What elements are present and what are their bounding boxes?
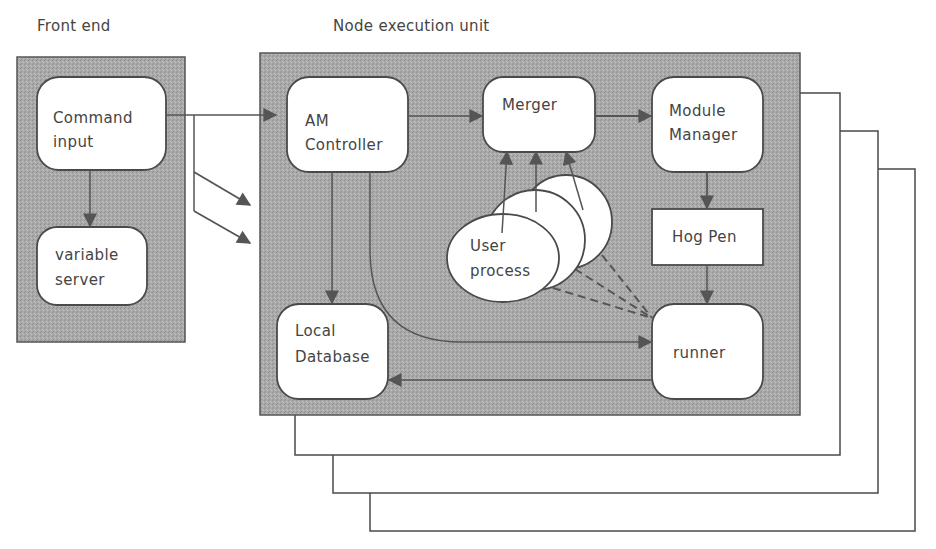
edge-command-to-node-copy-2 xyxy=(194,172,250,205)
command-input-label-line1: Command xyxy=(53,109,133,127)
user-process-label-line2: process xyxy=(470,262,530,280)
runner-label: runner xyxy=(673,344,726,362)
edge-command-to-node-copy-3 xyxy=(194,211,250,243)
hog-pen-node: Hog Pen xyxy=(652,209,763,265)
local-database-node: Local Database xyxy=(277,304,388,399)
am-controller-label-line2: Controller xyxy=(305,136,383,154)
variable-server-node: variable server xyxy=(37,227,147,305)
command-input-node: Command input xyxy=(37,77,166,170)
am-controller-node: AM Controller xyxy=(287,77,408,172)
am-controller-label-line1: AM xyxy=(305,112,329,130)
merger-node: Merger xyxy=(483,77,595,152)
module-manager-node: Module Manager xyxy=(652,77,763,172)
merger-label: Merger xyxy=(502,96,558,114)
hog-pen-label: Hog Pen xyxy=(672,228,737,246)
local-database-label-line2: Database xyxy=(295,348,370,366)
variable-server-label-line2: server xyxy=(55,271,105,289)
module-manager-label-line2: Manager xyxy=(669,126,738,144)
variable-server-label-line1: variable xyxy=(55,246,119,264)
user-process-label-line1: User xyxy=(470,237,506,255)
module-manager-label-line1: Module xyxy=(669,102,726,120)
runner-node: runner xyxy=(652,304,763,399)
command-input-label-line2: input xyxy=(53,133,94,151)
architecture-diagram: Command input variable server AM Control… xyxy=(0,0,936,549)
local-database-label-line1: Local xyxy=(295,322,336,340)
